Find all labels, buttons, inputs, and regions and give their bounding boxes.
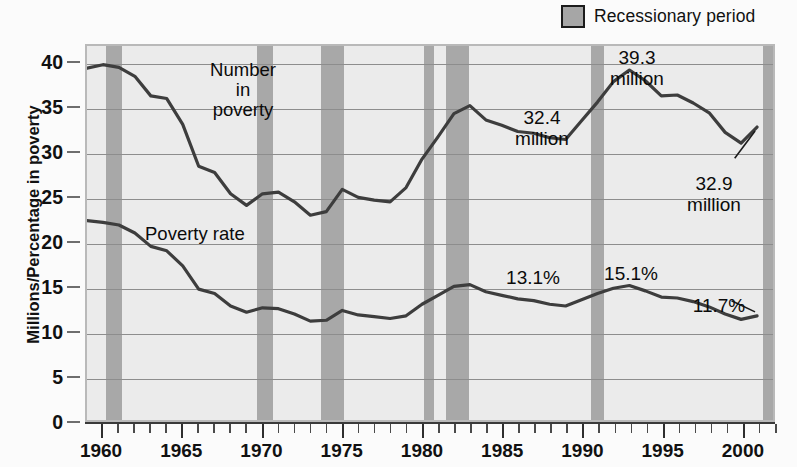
x-tick-label: 1980 <box>401 440 443 462</box>
y-tick-label: 25 <box>41 186 63 209</box>
x-axis-line <box>85 422 775 424</box>
x-tick-mark <box>534 424 536 433</box>
x-axis: 196019651970197519801985199019952000 <box>85 422 775 467</box>
series-label-rate: Poverty rate <box>145 224 305 244</box>
x-tick-label: 1975 <box>321 440 363 462</box>
x-tick-mark <box>518 424 520 433</box>
x-tick-mark-major <box>262 424 264 438</box>
x-tick-mark-major <box>502 424 504 438</box>
y-tick-mark <box>67 331 80 333</box>
x-tick-mark <box>358 424 360 433</box>
callout-32-4-million: 32.4 million <box>492 108 592 149</box>
legend: Recessionary period <box>561 5 755 28</box>
x-tick-mark <box>727 424 729 433</box>
plot-area: Number in poverty Poverty rate 32.4 mill… <box>85 44 775 422</box>
x-tick-label: 1985 <box>481 440 523 462</box>
chart-page: Recessionary period Millions/Percentage … <box>0 0 797 467</box>
x-tick-label: 1970 <box>240 440 282 462</box>
x-tick-mark <box>615 424 617 433</box>
x-tick-mark <box>711 424 713 433</box>
y-tick-mark <box>67 106 80 108</box>
x-tick-mark <box>326 424 328 433</box>
x-tick-label: 1965 <box>160 440 202 462</box>
x-tick-mark <box>149 424 151 433</box>
y-tick-label: 0 <box>52 411 63 434</box>
legend-label: Recessionary period <box>594 6 755 27</box>
x-tick-mark <box>197 424 199 433</box>
callout-11-7-percent: 11.7% <box>679 296 759 317</box>
x-tick-mark <box>631 424 633 433</box>
x-tick-mark <box>294 424 296 433</box>
y-tick-label: 20 <box>41 231 63 254</box>
x-tick-mark <box>165 424 167 433</box>
y-tick-label: 5 <box>52 366 63 389</box>
x-tick-mark <box>406 424 408 433</box>
x-tick-mark <box>390 424 392 433</box>
x-tick-label: 1995 <box>642 440 684 462</box>
x-tick-mark <box>695 424 697 433</box>
x-tick-mark <box>213 424 215 433</box>
callout-15-1-percent: 15.1% <box>591 264 671 285</box>
y-tick-mark <box>67 151 80 153</box>
x-tick-mark-major <box>342 424 344 438</box>
x-tick-mark <box>229 424 231 433</box>
x-tick-mark <box>759 424 761 433</box>
x-tick-mark-major <box>743 424 745 438</box>
y-tick-mark <box>67 286 80 288</box>
x-tick-mark <box>310 424 312 433</box>
y-tick-label: 15 <box>41 276 63 299</box>
x-tick-mark <box>278 424 280 433</box>
x-tick-mark <box>470 424 472 433</box>
x-tick-mark <box>647 424 649 433</box>
x-tick-mark <box>133 424 135 433</box>
y-tick-mark <box>67 421 80 423</box>
x-tick-mark <box>454 424 456 433</box>
y-tick-mark <box>67 61 80 63</box>
x-tick-mark-major <box>422 424 424 438</box>
series-label-number: Number in poverty <box>183 60 303 120</box>
x-tick-mark-major <box>663 424 665 438</box>
y-tick-label: 30 <box>41 141 63 164</box>
y-tick-mark <box>67 376 80 378</box>
callout-32-9-million: 32.9 million <box>664 174 764 215</box>
x-tick-mark <box>438 424 440 433</box>
y-tick-mark <box>67 196 80 198</box>
x-tick-mark-major <box>101 424 103 438</box>
x-tick-mark <box>598 424 600 433</box>
y-tick-label: 40 <box>41 51 63 74</box>
x-tick-mark <box>117 424 119 433</box>
x-tick-label: 1960 <box>80 440 122 462</box>
x-tick-mark <box>775 424 777 433</box>
x-tick-mark <box>566 424 568 433</box>
x-tick-mark-major <box>181 424 183 438</box>
y-axis-ticks: 0510152025303540 <box>0 0 85 467</box>
x-tick-label: 1990 <box>561 440 603 462</box>
y-tick-mark <box>67 241 80 243</box>
x-tick-mark <box>679 424 681 433</box>
callout-13-1-percent: 13.1% <box>493 268 573 289</box>
x-tick-mark <box>374 424 376 433</box>
x-tick-mark-major <box>582 424 584 438</box>
callout-39-3-million: 39.3 million <box>587 48 687 89</box>
x-tick-mark <box>245 424 247 433</box>
y-tick-label: 10 <box>41 321 63 344</box>
x-tick-mark <box>486 424 488 433</box>
recession-band-swatch <box>561 5 585 28</box>
x-tick-mark <box>550 424 552 433</box>
leader-line-32-9 <box>735 131 755 158</box>
x-tick-label: 2000 <box>722 440 764 462</box>
y-tick-label: 35 <box>41 96 63 119</box>
